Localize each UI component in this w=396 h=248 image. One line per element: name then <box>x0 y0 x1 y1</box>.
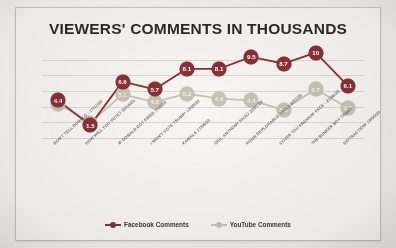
x-axis-labels: DON'T TELL DONALD - 17/11/20HOW WILL YOU… <box>16 140 380 202</box>
data-point[interactable]: 5.7 <box>147 82 162 97</box>
chart-title: VIEWERS' COMMENTS IN THOUSANDS <box>16 20 380 38</box>
legend-marker-facebook-icon <box>105 221 121 228</box>
data-point[interactable]: 5.7 <box>308 82 323 97</box>
data-point[interactable]: 8.1 <box>179 61 194 76</box>
photo-frame: VIEWERS' COMMENTS IN THOUSANDS 4.01.85.1… <box>0 0 396 248</box>
data-point[interactable]: 4.4 <box>51 93 66 108</box>
slide-canvas: VIEWERS' COMMENTS IN THOUSANDS 4.01.85.1… <box>16 8 380 240</box>
data-point[interactable]: 4.6 <box>212 91 227 106</box>
legend-item-facebook[interactable]: Facebook Comments <box>105 221 189 228</box>
legend-label-youtube: YouTube Comments <box>230 221 291 228</box>
data-point[interactable]: 8.1 <box>212 61 227 76</box>
legend-label-facebook: Facebook Comments <box>124 221 189 228</box>
data-point[interactable]: 10 <box>308 45 323 60</box>
data-point[interactable]: 6.6 <box>115 74 130 89</box>
legend-item-youtube[interactable]: YouTube Comments <box>211 221 291 228</box>
chart-legend: Facebook Comments YouTube Comments <box>16 221 380 228</box>
data-point[interactable]: 8.7 <box>276 56 291 71</box>
data-point[interactable]: 5.1 <box>115 87 130 102</box>
data-point[interactable]: 6.1 <box>340 78 355 93</box>
data-point[interactable]: 5.2 <box>179 86 194 101</box>
legend-marker-youtube-icon <box>211 221 227 228</box>
data-point[interactable]: 9.5 <box>244 49 259 64</box>
series-line-facebook <box>58 53 348 126</box>
